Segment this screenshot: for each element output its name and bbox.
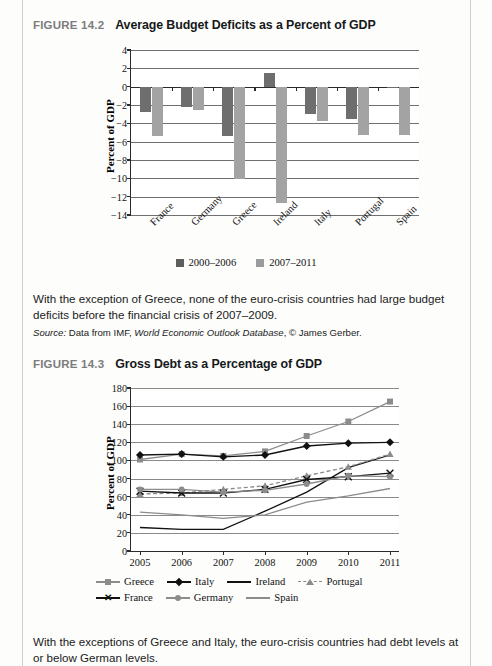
chart2-legend-marker (306, 579, 314, 585)
chart1-legend-swatch (256, 259, 264, 267)
chart2-marker-italy (344, 439, 352, 447)
figure-14-2-caption-text: With the exception of Greece, none of th… (33, 291, 461, 322)
chart2-legend-item-france[interactable]: ✕France (96, 592, 153, 603)
chart1-bar-germany-2000-2006 (181, 87, 192, 107)
chart1-gridline (131, 68, 419, 69)
chart1-bar-italy-2000-2006 (305, 87, 316, 115)
chart1-legend-label: 2000–2006 (189, 257, 237, 268)
gross-debt-line-chart: Percent of GDP 1801601401201008060402002… (0, 378, 492, 618)
chart2-legend-marker: ✕ (104, 594, 112, 602)
chart2-legend-row: GreeceItalyIrelandPortugal (96, 576, 456, 587)
chart1-y-tick-mark (127, 214, 131, 215)
chart2-marker-germany (179, 486, 185, 492)
chart1-y-axis-label: Percent of GDP (104, 99, 116, 173)
chart2-x-label-2005: 2005 (130, 557, 151, 568)
chart1-bar-germany-2007-2011 (193, 87, 204, 110)
chart2-legend-key (167, 576, 191, 587)
chart2-marker-italy (386, 438, 394, 446)
chart1-x-tick-mark (378, 87, 379, 91)
textbook-page: FIGURE 14.2 Average Budget Deficits as a… (0, 0, 492, 666)
chart1-bar-portugal-2007-2011 (358, 87, 369, 136)
chart2-legend-marker (179, 582, 185, 588)
chart2-plot-area: 1801601401201008060402002005200620072008… (131, 388, 399, 551)
chart1-y-tick-mark (127, 104, 131, 105)
chart2-legend-item-italy[interactable]: Italy (167, 576, 214, 587)
chart2-legend-item-greece[interactable]: Greece (96, 576, 154, 587)
chart1-y-tick-mark (127, 196, 131, 197)
chart2-legend-label: Greece (124, 576, 154, 587)
chart2-legend-line (227, 581, 251, 583)
chart2-marker-portugal (386, 451, 393, 458)
figure-14-2-title: Average Budget Deficits as a Percent of … (115, 18, 375, 32)
chart1-plot-area: 420−2−4−6−8−10−12−14FranceGermanyGreeceI… (131, 50, 419, 215)
chart1-y-tick-mark (127, 49, 131, 50)
chart2-marker-germany (220, 489, 226, 495)
chart2-series-layer (131, 388, 399, 551)
source-post: , © James Gerber. (284, 327, 362, 338)
chart1-y-tick-mark (127, 68, 131, 69)
chart1-legend-swatch (176, 259, 184, 267)
chart2-x-tick-mark (265, 551, 266, 555)
figure-14-3-number: FIGURE 14.3 (33, 358, 104, 370)
chart2-legend-item-portugal[interactable]: Portugal (298, 576, 362, 587)
chart2-marker-germany (137, 486, 143, 492)
chart2-x-label-2010: 2010 (338, 557, 359, 568)
chart2-legend-item-ireland[interactable]: Ireland (227, 576, 285, 587)
chart1-legend-label: 2007–2011 (269, 257, 316, 268)
chart2-legend-item-spain[interactable]: Spain (246, 592, 298, 603)
chart2-x-label-2006: 2006 (171, 557, 192, 568)
chart1-legend-item-2007-2011[interactable]: 2007–2011 (256, 257, 316, 268)
chart1-x-category-portugal: Portugal (353, 195, 386, 228)
chart2-x-tick-mark (307, 551, 308, 555)
chart1-y-tick-mark (127, 141, 131, 142)
chart1-x-tick-mark (254, 87, 255, 91)
chart2-legend-label: Portugal (326, 576, 362, 587)
chart1-bar-spain-2000-2006 (387, 87, 398, 89)
chart2-legend-marker (175, 595, 181, 601)
chart2-marker-greece (345, 419, 351, 425)
chart1-bar-greece-2007-2011 (234, 87, 245, 180)
chart2-legend-key (166, 592, 190, 603)
chart2-legend-label: Ireland (255, 576, 285, 587)
chart2-x-tick-mark (223, 551, 224, 555)
figure-14-3-caption-text: With the exceptions of Greece and Italy,… (33, 634, 461, 665)
chart2-legend-label: Italy (195, 576, 214, 587)
chart1-x-tick-mark (213, 87, 214, 91)
chart2-legend-key (227, 576, 251, 587)
chart1-bar-ireland-2000-2006 (264, 73, 275, 87)
chart1-bar-portugal-2000-2006 (346, 87, 357, 119)
chart1-x-category-germany: Germany (189, 193, 224, 228)
chart2-legend-key (96, 576, 120, 587)
chart1-bar-greece-2000-2006 (222, 87, 233, 137)
chart1-legend-item-2000-2006[interactable]: 2000–2006 (176, 257, 237, 268)
chart2-x-tick-mark (348, 551, 349, 555)
figure-14-3-header: FIGURE 14.3 Gross Debt as a Percentage o… (33, 357, 322, 371)
chart2-legend-key (298, 576, 322, 587)
chart2-x-label-2007: 2007 (213, 557, 234, 568)
chart2-marker-italy (303, 442, 311, 450)
chart2-legend-item-germany[interactable]: Germany (166, 592, 233, 603)
chart1-bar-italy-2007-2011 (317, 87, 328, 122)
chart2-legend-marker (105, 579, 111, 585)
chart1-bar-ireland-2007-2011 (276, 87, 287, 203)
chart2-x-label-2009: 2009 (296, 557, 317, 568)
chart2-legend-line (246, 597, 270, 599)
chart2-marker-greece (304, 433, 310, 439)
chart1-x-tick-mark (337, 87, 338, 91)
budget-deficits-bar-chart: Percent of GDP 420−2−4−6−8−10−12−14Franc… (0, 42, 492, 277)
chart2-legend-label: Germany (194, 592, 233, 603)
figure-14-3-caption: With the exceptions of Greece and Italy,… (33, 634, 461, 665)
figure-14-2-number: FIGURE 14.2 (33, 19, 104, 31)
chart2-legend-key (246, 592, 270, 603)
chart1-x-category-greece: Greece (230, 199, 259, 228)
chart1-x-category-italy: Italy (312, 207, 333, 228)
chart2-legend-key: ✕ (96, 592, 120, 603)
figure-14-2-caption: With the exception of Greece, none of th… (33, 291, 461, 340)
chart2-marker-germany (262, 487, 268, 493)
source-pre: Data from IMF, (66, 327, 134, 338)
figure-14-2-header: FIGURE 14.2 Average Budget Deficits as a… (33, 18, 376, 32)
chart1-x-category-ireland: Ireland (271, 199, 300, 228)
figure-14-2-source: Source: Data from IMF, World Economic Ou… (33, 327, 461, 339)
chart1-x-tick-mark (296, 87, 297, 91)
chart2-marker-germany (304, 481, 310, 487)
